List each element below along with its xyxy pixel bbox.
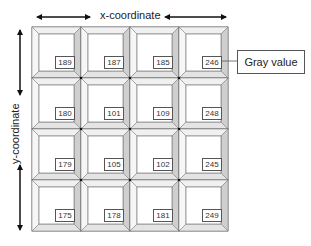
cell-value: 246 bbox=[202, 56, 222, 69]
cell-value: 109 bbox=[153, 107, 173, 120]
cell-value: 179 bbox=[55, 158, 75, 171]
cell-value: 187 bbox=[104, 56, 124, 69]
y-axis-label: y-coordinate bbox=[9, 103, 21, 164]
cell-value: 248 bbox=[202, 107, 222, 120]
cell-value: 249 bbox=[202, 209, 222, 222]
gray-value-callout: Gray value bbox=[237, 50, 305, 74]
cell-value: 175 bbox=[55, 209, 75, 222]
cell-value: 105 bbox=[104, 158, 124, 171]
cell-value: 245 bbox=[202, 158, 222, 171]
cell-value: 102 bbox=[153, 158, 173, 171]
cell-value: 180 bbox=[55, 107, 75, 120]
cell-value: 101 bbox=[104, 107, 124, 120]
cell-value: 178 bbox=[104, 209, 124, 222]
cell-value: 185 bbox=[153, 56, 173, 69]
cell-value: 189 bbox=[55, 56, 75, 69]
x-axis-label: x-coordinate bbox=[100, 9, 161, 21]
cell-value: 181 bbox=[153, 209, 173, 222]
